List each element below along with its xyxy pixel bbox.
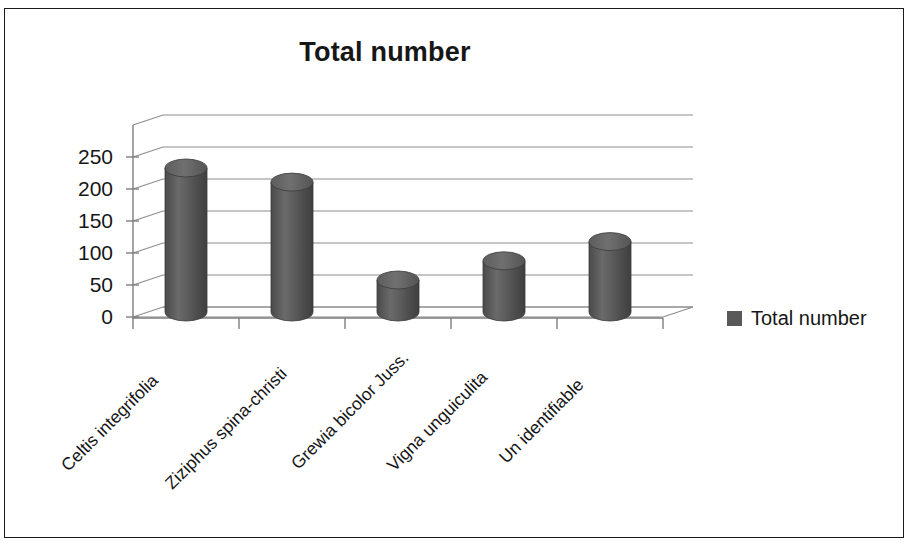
bar xyxy=(271,173,313,321)
chart-legend: Total number xyxy=(727,307,867,330)
legend-label: Total number xyxy=(751,307,867,330)
y-tick-label: 50 xyxy=(53,273,113,297)
y-tick-label: 200 xyxy=(53,177,113,201)
chart-frame: Total number xyxy=(4,8,904,538)
plot-area: 250 200 150 100 50 0 Celtis integrifolia… xyxy=(5,9,904,538)
bar-series xyxy=(165,159,631,321)
bar xyxy=(589,233,631,321)
bar xyxy=(165,159,207,321)
bar xyxy=(483,252,525,321)
y-tick-label: 250 xyxy=(53,145,113,169)
plot-top-edge xyxy=(133,115,693,125)
chart-svg xyxy=(5,9,904,538)
bar xyxy=(377,271,419,321)
y-tick-label: 100 xyxy=(53,241,113,265)
legend-swatch xyxy=(727,311,742,326)
y-tick-label: 150 xyxy=(53,209,113,233)
y-tick-label: 0 xyxy=(53,305,113,329)
